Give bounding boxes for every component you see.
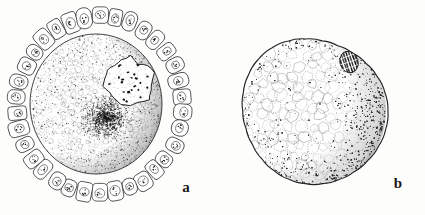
follicle-cell	[172, 88, 191, 105]
follicle-cell	[7, 106, 27, 121]
follicle-cell	[7, 89, 26, 105]
follicle-cell	[92, 7, 108, 24]
chromatin-block	[118, 65, 120, 67]
figure-b-label: b	[394, 175, 402, 191]
follicle-cell	[75, 181, 93, 203]
vitelline-membrane-shading	[30, 34, 162, 174]
chromatin-block	[137, 89, 139, 91]
oocyte-body-a	[29, 34, 162, 175]
follicle-cell	[107, 8, 123, 27]
chromatin-block	[121, 78, 124, 80]
chromatin-block	[118, 76, 120, 79]
figure-a-label: a	[182, 179, 190, 195]
follicle-cell	[106, 180, 125, 202]
follicle-cell	[173, 103, 193, 121]
follicle-cell	[92, 183, 108, 201]
illustration-plate: a b	[0, 0, 425, 215]
plate-canvas: a b	[0, 0, 425, 215]
